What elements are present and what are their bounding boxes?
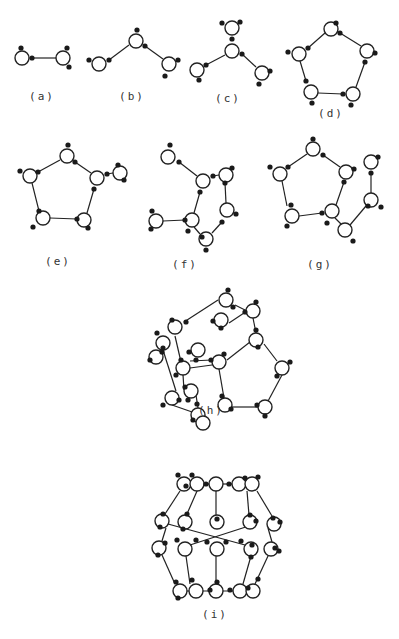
hydrogen-atom	[115, 162, 120, 167]
hydrogen-atom	[245, 585, 250, 590]
hydrogen-atom	[228, 406, 233, 411]
panel-label-c: (c)	[215, 92, 241, 105]
panel-label-f: (f)	[172, 258, 198, 271]
oxygen-atom	[273, 167, 287, 181]
hydrogen-atom	[185, 228, 190, 233]
hydrogen-atom	[378, 204, 383, 209]
hydrogen-atom	[368, 170, 373, 175]
oxygen-atom	[162, 57, 176, 71]
hydrogen-atom	[182, 384, 187, 389]
panel-label-b: (b)	[119, 90, 145, 103]
oxygen-atom	[168, 320, 182, 334]
hydrogen-bond	[227, 342, 250, 360]
hydrogen-atom	[193, 537, 198, 542]
hydrogen-atom	[189, 577, 194, 582]
hydrogen-bond	[87, 189, 94, 213]
panel-i-bonds	[162, 484, 272, 591]
hydrogen-atom	[85, 225, 90, 230]
oxygen-atom	[214, 313, 228, 327]
oxygen-atom	[210, 542, 224, 556]
hydrogen-atom	[104, 171, 109, 176]
hydrogen-atom	[341, 179, 346, 184]
hydrogen-atom	[223, 539, 228, 544]
hydrogen-atom	[197, 189, 202, 194]
hydrogen-atom	[267, 68, 272, 73]
hydrogen-atom	[72, 159, 77, 164]
hydrogen-atom	[310, 136, 315, 141]
oxygen-atom	[56, 51, 70, 65]
hydrogen-atom	[348, 102, 353, 107]
hydrogen-bond	[335, 218, 341, 224]
hydrogen-bond	[186, 556, 190, 584]
hydrogen-atom	[365, 203, 370, 208]
oxygen-atom	[220, 203, 234, 217]
hydrogen-atom	[253, 299, 258, 304]
oxygen-atom	[60, 149, 74, 163]
oxygen-atom	[325, 204, 339, 218]
hydrogen-atom	[253, 518, 258, 523]
hydrogen-atom	[64, 45, 69, 50]
hydrogen-atom	[256, 81, 261, 86]
hydrogen-bond	[257, 491, 272, 516]
hydrogen-bond	[38, 160, 60, 172]
hydrogen-atom	[324, 220, 329, 225]
oxygen-atom	[275, 361, 289, 375]
hydrogen-atom	[333, 20, 338, 25]
hydrogen-atom	[173, 372, 178, 377]
hydrogen-bond	[299, 213, 322, 216]
panel-f-molecules	[148, 142, 238, 252]
hydrogen-bond	[145, 46, 163, 59]
hydrogen-atom	[305, 45, 310, 50]
hydrogen-bond	[267, 375, 282, 403]
panel-b-molecules	[86, 27, 180, 78]
hydrogen-atom	[91, 186, 96, 191]
hydrogen-atom	[160, 511, 165, 516]
hydrogen-atom	[277, 519, 282, 524]
oxygen-atom	[149, 214, 163, 228]
panel-e-molecules	[17, 142, 127, 230]
hydrogen-atom	[162, 73, 167, 78]
oxygen-atom	[225, 21, 239, 35]
hydrogen-atom	[229, 165, 234, 170]
hydrogen-atom	[184, 511, 189, 516]
water-cluster-diagram: (a)(b)(c)(d)(e)(f)(g)(h)(i)	[0, 0, 399, 639]
oxygen-atom	[212, 355, 226, 369]
hydrogen-atom	[29, 55, 34, 60]
hydrogen-atom	[253, 327, 258, 332]
hydrogen-atom	[226, 481, 231, 486]
hydrogen-bond	[206, 55, 225, 65]
hydrogen-atom	[175, 472, 180, 477]
oxygen-atom	[15, 51, 29, 65]
hydrogen-atom	[262, 413, 267, 418]
hydrogen-atom	[255, 576, 260, 581]
hydrogen-atom	[203, 62, 208, 67]
hydrogen-atom	[208, 357, 213, 362]
oxygen-atom	[249, 333, 263, 347]
hydrogen-atom	[157, 524, 162, 529]
hydrogen-atom	[225, 287, 230, 292]
hydrogen-atom	[17, 168, 22, 173]
hydrogen-atom	[203, 481, 208, 486]
hydrogen-atom	[372, 50, 377, 55]
hydrogen-atom	[242, 475, 247, 480]
hydrogen-atom	[255, 474, 260, 479]
hydrogen-atom	[148, 226, 153, 231]
oxygen-atom	[161, 150, 175, 164]
hydrogen-atom	[309, 100, 314, 105]
hydrogen-atom	[159, 349, 164, 354]
hydrogen-bond	[165, 491, 180, 514]
hydrogen-atom	[155, 552, 160, 557]
hydrogen-atom	[180, 526, 185, 531]
hydrogen-bond	[194, 192, 200, 213]
oxygen-atom	[173, 584, 187, 598]
oxygen-atom	[178, 515, 192, 529]
hydrogen-atom	[193, 357, 198, 362]
oxygen-atom	[292, 47, 306, 61]
hydrogen-atom	[219, 219, 224, 224]
oxygen-atom	[129, 34, 143, 48]
hydrogen-bond	[190, 365, 212, 368]
hydrogen-atom	[230, 304, 235, 309]
hydrogen-atom	[204, 539, 209, 544]
hydrogen-atom	[74, 216, 79, 221]
hydrogen-atom	[375, 154, 380, 159]
